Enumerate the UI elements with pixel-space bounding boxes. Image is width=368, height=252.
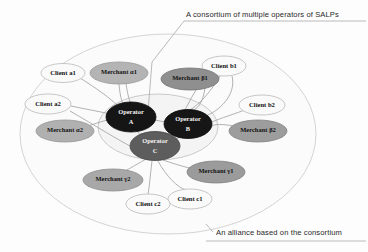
node-merchant-a2[interactable]: Merchant α2	[36, 120, 94, 142]
node-client-c1[interactable]: Client c1	[168, 189, 212, 209]
node-shape-operator	[106, 102, 156, 132]
node-merchant-b2[interactable]: Merchant β2	[229, 120, 287, 142]
node-shape-client	[25, 94, 71, 114]
node-client-a2[interactable]: Client a2	[25, 94, 71, 114]
node-shape-client	[126, 194, 170, 214]
node-operator-c[interactable]: OperatorC	[130, 132, 180, 161]
node-client-a1[interactable]: Client a1	[41, 64, 85, 83]
node-shape-merchant	[83, 169, 143, 191]
node-shape-operator	[164, 110, 212, 139]
node-shape-client	[168, 189, 212, 209]
node-shape-client	[41, 64, 85, 83]
node-merchant-b1[interactable]: Merchant β1	[161, 68, 219, 90]
node-shape-client	[239, 95, 285, 115]
node-shape-merchant	[187, 161, 245, 183]
node-operator-a[interactable]: OperatorA	[106, 102, 156, 132]
node-operator-b[interactable]: OperatorB	[164, 110, 212, 139]
node-shape-operator	[130, 132, 180, 161]
node-merchant-c1[interactable]: Merchant γ1	[187, 161, 245, 183]
caption-alliance: An alliance based on the consortium	[216, 228, 342, 237]
network-diagram-svg: OperatorAOperatorBOperatorCClient a1Clie…	[0, 0, 368, 252]
node-shape-merchant	[161, 68, 219, 90]
caption-consortium: A consortium of multiple operators of SA…	[186, 10, 339, 19]
node-merchant-a1[interactable]: Merchant α1	[90, 62, 148, 84]
node-client-c2[interactable]: Client c2	[126, 194, 170, 214]
node-shape-merchant	[36, 120, 94, 142]
node-shape-merchant	[90, 62, 148, 84]
diagram-canvas: OperatorAOperatorBOperatorCClient a1Clie…	[0, 0, 368, 252]
node-client-b2[interactable]: Client b2	[239, 95, 285, 115]
node-merchant-c2[interactable]: Merchant γ2	[83, 169, 143, 191]
node-shape-merchant	[229, 120, 287, 142]
